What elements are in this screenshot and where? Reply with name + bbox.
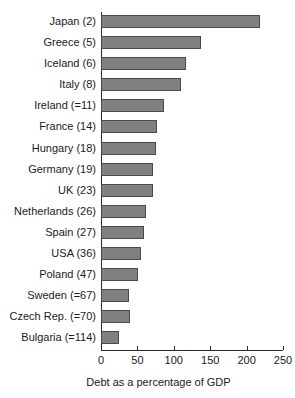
x-tick-mark xyxy=(210,346,211,350)
bar-row: Germany (19) xyxy=(101,160,283,181)
plot-area: Japan (2)Greece (5)Iceland (6)Italy (8)I… xyxy=(101,12,283,350)
bar-row: Czech Rep. (=70) xyxy=(101,307,283,328)
bar xyxy=(101,99,164,112)
x-tick-mark xyxy=(174,346,175,350)
x-tick-mark xyxy=(283,346,284,350)
bar-category-label: Japan (2) xyxy=(50,13,96,29)
bar xyxy=(101,163,153,176)
bar-row: France (14) xyxy=(101,117,283,138)
x-tick-mark xyxy=(101,346,102,350)
bar-category-label: Germany (19) xyxy=(28,161,96,177)
bar-row: Ireland (=11) xyxy=(101,96,283,117)
x-tick-label: 50 xyxy=(131,353,143,367)
bar-category-label: Bulgaria (=114) xyxy=(21,329,96,345)
clipped-top-text xyxy=(3,0,33,4)
bar-row: Netherlands (26) xyxy=(101,202,283,223)
bar-row: USA (36) xyxy=(101,244,283,265)
bar xyxy=(101,15,260,28)
debt-bar-chart: Japan (2)Greece (5)Iceland (6)Italy (8)I… xyxy=(0,0,295,398)
bar-category-label: Czech Rep. (=70) xyxy=(9,308,96,324)
x-tick-label: 250 xyxy=(274,353,292,367)
bar-category-label: Iceland (6) xyxy=(44,55,96,71)
bar xyxy=(101,57,186,70)
bar xyxy=(101,310,130,323)
x-tick-label: 200 xyxy=(237,353,255,367)
bar-row: Greece (5) xyxy=(101,33,283,54)
bar-category-label: USA (36) xyxy=(51,245,96,261)
bar xyxy=(101,78,181,91)
bar-category-label: Spain (27) xyxy=(45,224,96,240)
x-tick-label: 100 xyxy=(165,353,183,367)
bar-row: Poland (47) xyxy=(101,265,283,286)
bar-row: UK (23) xyxy=(101,181,283,202)
bar xyxy=(101,142,156,155)
bar-category-label: Poland (47) xyxy=(39,266,96,282)
bar-row: Spain (27) xyxy=(101,223,283,244)
x-tick-mark xyxy=(137,346,138,350)
bar-row: Hungary (18) xyxy=(101,139,283,160)
x-tick-label: 0 xyxy=(98,353,104,367)
bar xyxy=(101,247,141,260)
bar-row: Sweden (=67) xyxy=(101,286,283,307)
bar-row: Japan (2) xyxy=(101,12,283,33)
x-axis-title: Debt as a percentage of GDP xyxy=(0,375,295,389)
bar xyxy=(101,36,201,49)
bar-category-label: Ireland (=11) xyxy=(34,97,96,113)
bar xyxy=(101,289,129,302)
bar-category-label: Sweden (=67) xyxy=(27,287,96,303)
bar-category-label: Netherlands (26) xyxy=(14,203,96,219)
bar-category-label: France (14) xyxy=(39,118,96,134)
bar-rows: Japan (2)Greece (5)Iceland (6)Italy (8)I… xyxy=(101,12,283,350)
x-axis-ticks: 050100150200250 xyxy=(101,350,283,374)
bar-category-label: Italy (8) xyxy=(59,76,96,92)
x-tick-mark xyxy=(247,346,248,350)
bar xyxy=(101,226,144,239)
bar xyxy=(101,268,138,281)
x-tick-label: 150 xyxy=(201,353,219,367)
bar-row: Bulgaria (=114) xyxy=(101,328,283,349)
bar-category-label: Hungary (18) xyxy=(32,140,96,156)
bar xyxy=(101,331,119,344)
bar xyxy=(101,120,157,133)
bar xyxy=(101,205,146,218)
bar-category-label: Greece (5) xyxy=(43,34,96,50)
bar xyxy=(101,184,153,197)
bar-category-label: UK (23) xyxy=(58,182,96,198)
bar-row: Italy (8) xyxy=(101,75,283,96)
bar-row: Iceland (6) xyxy=(101,54,283,75)
